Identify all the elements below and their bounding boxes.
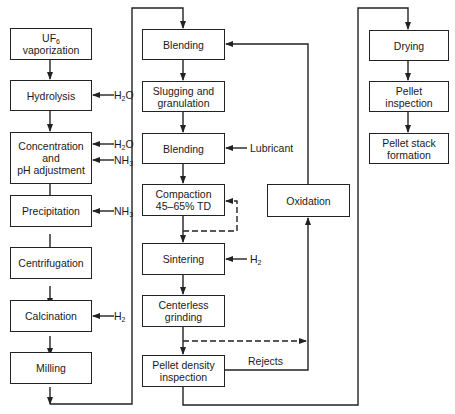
blending-box-1: Blending [142, 29, 225, 60]
pellet-inspection-box: Pellet inspection [369, 81, 449, 112]
rejects-label: Rejects [248, 355, 283, 367]
pellet-density-inspection-box: Pellet density inspection [142, 355, 225, 387]
concentration-ammonia-input: NH3 [114, 154, 133, 166]
centrifugation-box: Centrifugation [10, 247, 92, 279]
sintering-box: Sintering [142, 243, 225, 275]
slugging-granulation-box: Slugging and granulation [142, 81, 225, 112]
uf6-vaporization-box: UF6 vaporization [10, 28, 92, 60]
calcination-box: Calcination [10, 300, 92, 332]
lubricant-input: Lubricant [250, 142, 293, 154]
concentration-water-input: H2O [114, 138, 134, 150]
hydrolysis-water-input: H2O [114, 89, 134, 101]
precipitation-ammonia-input: NH3 [114, 205, 133, 217]
compaction-box: Compaction 45–65% TD [142, 184, 225, 216]
blending-box-2: Blending [142, 133, 225, 164]
drying-box: Drying [369, 30, 449, 61]
sintering-hydrogen-input: H2 [250, 253, 262, 265]
milling-box: Milling [10, 352, 92, 384]
precipitation-box: Precipitation [10, 195, 92, 227]
oxidation-box: Oxidation [267, 184, 350, 217]
calcination-hydrogen-input: H2 [114, 310, 126, 322]
process-flow-diagram: UF6 vaporization Hydrolysis Concentratio… [0, 0, 455, 414]
centerless-grinding-box: Centerless grinding [142, 295, 225, 327]
pellet-stack-formation-box: Pellet stack formation [369, 133, 449, 164]
concentration-box: Concentration and pH adjustment [10, 132, 92, 184]
hydrolysis-box: Hydrolysis [10, 80, 92, 111]
